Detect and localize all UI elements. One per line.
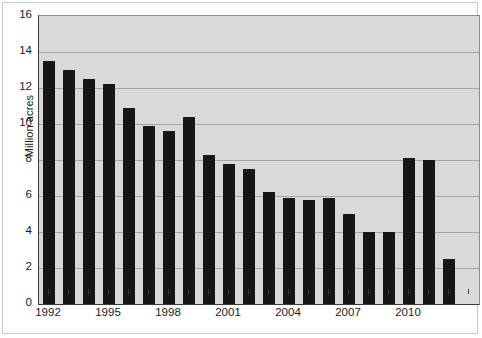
x-tick-mark — [408, 289, 409, 294]
bar — [123, 108, 135, 304]
gridline — [39, 52, 479, 53]
plot-area — [38, 15, 480, 305]
x-tick-mark — [308, 289, 309, 294]
chart-figure: Million acres 0246810121416 199219951998… — [0, 0, 482, 338]
bar — [203, 155, 215, 304]
x-tick-mark — [428, 289, 429, 294]
y-tick-label: 8 — [0, 153, 38, 165]
bar — [423, 160, 435, 304]
y-tick-label: 6 — [0, 189, 38, 201]
x-tick-label: 2010 — [395, 306, 421, 318]
x-tick-mark — [248, 289, 249, 294]
x-tick-mark — [388, 289, 389, 294]
bar — [403, 158, 415, 304]
x-tick-mark — [208, 289, 209, 294]
x-tick-label: 1992 — [35, 306, 61, 318]
x-tick-mark — [48, 289, 49, 294]
bar — [63, 70, 75, 304]
x-tick-label: 2004 — [275, 306, 301, 318]
x-tick-mark — [68, 289, 69, 294]
y-tick-label: 2 — [0, 261, 38, 273]
x-tick-label: 1998 — [155, 306, 181, 318]
x-tick-mark — [468, 289, 469, 294]
x-tick-mark — [128, 289, 129, 294]
x-tick-mark — [228, 289, 229, 294]
y-tick-label: 0 — [0, 297, 38, 309]
bar — [163, 131, 175, 304]
x-tick-label: 1995 — [95, 306, 121, 318]
bar — [83, 79, 95, 304]
x-tick-mark — [288, 289, 289, 294]
x-tick-mark — [348, 289, 349, 294]
bar — [103, 84, 115, 304]
y-tick-label: 16 — [0, 9, 38, 21]
bar — [263, 192, 275, 304]
x-tick-mark — [88, 289, 89, 294]
x-tick-mark — [148, 289, 149, 294]
x-tick-mark — [188, 289, 189, 294]
bar — [143, 126, 155, 304]
y-tick-label: 14 — [0, 45, 38, 57]
x-tick-mark — [268, 289, 269, 294]
x-tick-mark — [168, 289, 169, 294]
x-tick-mark — [328, 289, 329, 294]
x-tick-mark — [368, 289, 369, 294]
bar — [443, 259, 455, 304]
y-tick-label: 12 — [0, 81, 38, 93]
x-tick-mark — [108, 289, 109, 294]
bar — [43, 61, 55, 304]
bar — [183, 117, 195, 304]
x-tick-label: 2007 — [335, 306, 361, 318]
x-tick-label: 2001 — [215, 306, 241, 318]
y-tick-label: 4 — [0, 225, 38, 237]
y-tick-label: 10 — [0, 117, 38, 129]
bar — [243, 169, 255, 304]
bar — [223, 164, 235, 304]
x-tick-mark — [448, 289, 449, 294]
